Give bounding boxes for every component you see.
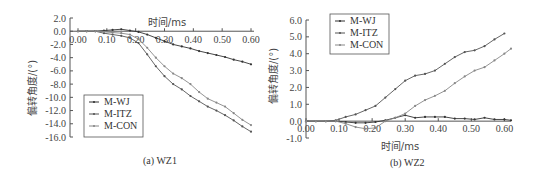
- y-tick-label: -10.0: [45, 92, 66, 103]
- chart-wz1: 2.00.0-2.0-4.0-6.0-8.0-10.0-12.0-14.0-16…: [26, 13, 260, 143]
- caption-a: (a) WZ1: [143, 155, 177, 167]
- y-tick-label: -6.0: [50, 65, 66, 76]
- series-line-m-con: [306, 49, 511, 129]
- y-tick-label: -12.0: [45, 105, 66, 116]
- y-tick-label: 4.0: [290, 48, 303, 59]
- x-tick-label: 0.10: [98, 34, 116, 45]
- x-tick-label: 0.50: [463, 123, 481, 134]
- y-tick-label: -16.0: [45, 132, 66, 143]
- x-axis-label: 时间/ms: [381, 140, 419, 152]
- caption-b: (b) WZ2: [390, 157, 425, 169]
- x-tick-label: 0.30: [396, 123, 414, 134]
- y-tick-label: -2.0: [50, 39, 66, 50]
- y-tick-label: -8.0: [50, 79, 66, 90]
- x-tick-label: 0.20: [127, 34, 145, 45]
- y-tick-label: -14.0: [45, 118, 66, 129]
- y-tick-label: -4.0: [50, 52, 66, 63]
- x-tick-label: 0.40: [430, 123, 448, 134]
- legend-item: M-WJ: [104, 96, 130, 107]
- y-tick-label: 3.0: [290, 65, 303, 76]
- legend-item: M-WJ: [350, 15, 376, 26]
- y-tick-label: 6.0: [290, 15, 303, 26]
- x-tick-label: 0.00: [69, 34, 87, 45]
- x-axis-label: 时间/ms: [148, 16, 186, 28]
- x-tick-label: 0.40: [185, 34, 203, 45]
- legend-item: M-ITZ: [104, 108, 132, 119]
- y-axis-label: 偏转角度/(°): [26, 60, 38, 116]
- y-tick-label: 2.0: [54, 13, 67, 24]
- x-tick-label: 0.00: [297, 123, 315, 134]
- legend-item: M-CON: [104, 120, 137, 131]
- y-tick-label: 2.0: [290, 82, 303, 93]
- x-tick-label: 0.50: [213, 34, 231, 45]
- legend-item: M-CON: [350, 39, 383, 50]
- y-tick-label: 1.0: [290, 99, 303, 110]
- y-tick-label: 5.0: [290, 31, 303, 42]
- x-tick-label: 0.60: [496, 123, 514, 134]
- chart-wz2: 6.05.04.03.02.01.00.0-1.00.000.100.200.3…: [267, 14, 513, 152]
- x-tick-label: 0.10: [330, 123, 348, 134]
- y-tick-label: 0.0: [54, 26, 67, 37]
- figure: 2.00.0-2.0-4.0-6.0-8.0-10.0-12.0-14.0-16…: [0, 0, 537, 179]
- x-tick-label: 0.60: [242, 34, 260, 45]
- legend-item: M-ITZ: [350, 27, 378, 38]
- y-axis-label: 偏转角度/(°): [267, 48, 279, 104]
